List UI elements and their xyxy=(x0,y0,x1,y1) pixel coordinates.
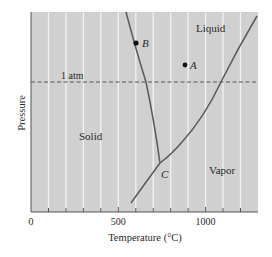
point-a-marker xyxy=(183,63,188,68)
point-c-label: C xyxy=(161,168,169,180)
region-label-vapor: Vapor xyxy=(209,164,236,176)
region-label-solid: Solid xyxy=(79,130,103,142)
point-a-label: A xyxy=(189,59,197,71)
x-axis-label: Temperature (°C) xyxy=(108,232,182,244)
point-b-label: B xyxy=(142,37,149,49)
y-axis-label: Pressure xyxy=(16,95,27,131)
x-tick-label-0: 0 xyxy=(29,216,34,227)
one-atm-label: 1 atm xyxy=(61,70,84,81)
x-tick-label-500: 500 xyxy=(111,216,126,227)
phase-diagram: B A C Liquid Solid Vapor 1 atm 0 500 100… xyxy=(0,0,272,257)
region-label-liquid: Liquid xyxy=(196,22,226,34)
x-tick-label-1000: 1000 xyxy=(196,216,216,227)
point-b-marker xyxy=(133,40,138,45)
